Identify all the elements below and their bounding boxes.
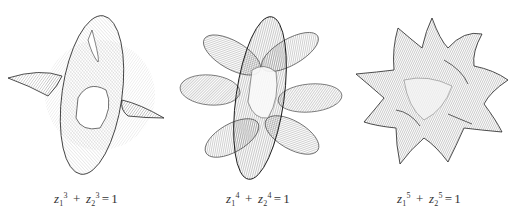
caption-subscript: 2 [434, 199, 438, 208]
caption-degree-5: z15 + z25=1 [344, 191, 514, 208]
caption-exponent: 4 [235, 191, 239, 200]
caption-subscript: 1 [402, 199, 406, 208]
caption-equals: = [100, 191, 112, 206]
caption-subscript: 2 [91, 199, 95, 208]
caption-equals: = [443, 191, 455, 206]
caption-subscript: 1 [59, 199, 63, 208]
caption-equals: = [272, 191, 284, 206]
caption-plus: + [243, 191, 255, 206]
figure-fermat-surfaces: z13 + z23=1 [0, 0, 514, 224]
panel-degree-4: z14 + z24=1 [172, 0, 344, 224]
surface-render-degree-3-image [0, 0, 172, 185]
caption-exponent: 3 [63, 191, 67, 200]
panel-degree-5: z15 + z25=1 [344, 0, 514, 224]
caption-plus: + [71, 191, 83, 206]
caption-subscript: 1 [231, 199, 235, 208]
caption-exponent: 5 [406, 191, 410, 200]
caption-degree-4: z14 + z24=1 [172, 191, 344, 208]
caption-subscript: 2 [263, 199, 267, 208]
caption-degree-3: z13 + z23=1 [0, 191, 172, 208]
caption-plus: + [414, 191, 426, 206]
surface-render-degree-5-image [344, 0, 514, 185]
caption-rhs: 1 [454, 191, 461, 206]
surface-render-degree-4-image [172, 0, 344, 185]
panel-degree-3: z13 + z23=1 [0, 0, 172, 224]
caption-rhs: 1 [111, 191, 118, 206]
caption-rhs: 1 [283, 191, 290, 206]
